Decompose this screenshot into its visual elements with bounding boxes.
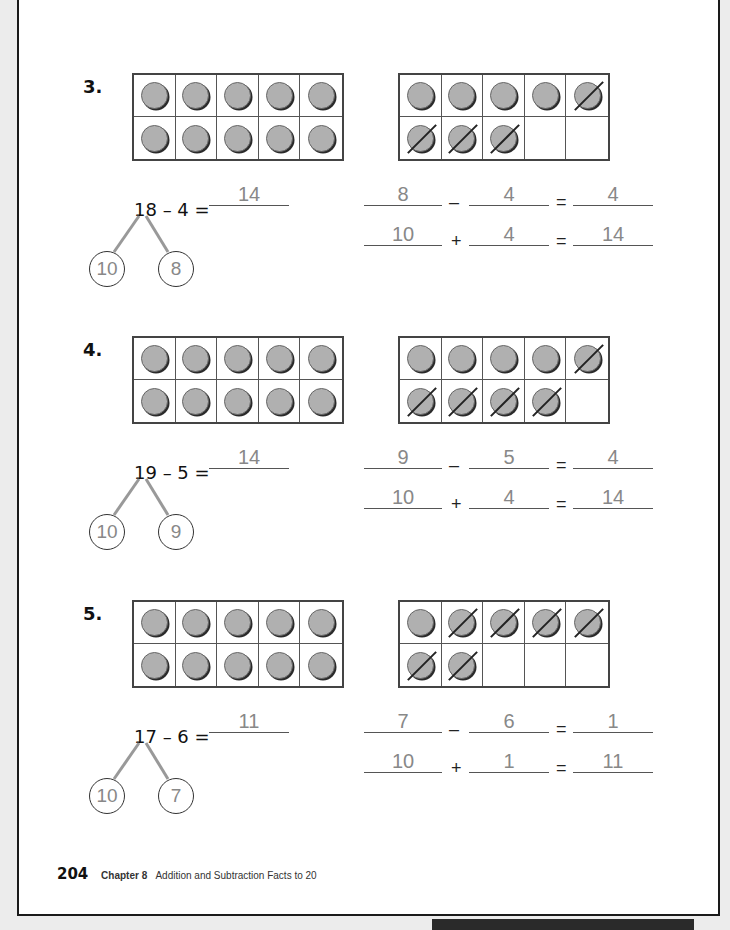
row2-b-blank[interactable]: 4 xyxy=(469,223,549,246)
row1-c-blank[interactable]: 4 xyxy=(573,183,653,206)
bond-circle-tens: 10 xyxy=(89,778,125,814)
row1-c-blank[interactable]: 4 xyxy=(573,446,653,469)
row2-b-blank[interactable]: 4 xyxy=(469,486,549,509)
bond-circle-ones: 8 xyxy=(158,251,194,287)
bond-circle-tens: 10 xyxy=(89,514,125,550)
number-bond-lines xyxy=(19,339,722,599)
row1-c-blank[interactable]: 1 xyxy=(573,710,653,733)
row2-a-blank[interactable]: 10 xyxy=(364,486,442,509)
bond-circle-ones: 9 xyxy=(158,514,194,550)
row1-b-blank[interactable]: 5 xyxy=(469,446,549,469)
row1-b-blank[interactable]: 6 xyxy=(469,710,549,733)
page-number: 204 xyxy=(57,865,88,883)
row2-c-blank[interactable]: 11 xyxy=(573,750,653,773)
row2-c-blank[interactable]: 14 xyxy=(573,486,653,509)
row2-b-blank[interactable]: 1 xyxy=(469,750,549,773)
problem-3: 3. 18 – 4 = 14 10 8 8 – 4 = 4 10 + 4 = 1… xyxy=(19,76,722,336)
chapter-label: Chapter 8 xyxy=(101,870,147,881)
row1-operator: – xyxy=(449,455,459,476)
page-footer: 204 Chapter 8 Addition and Subtraction F… xyxy=(57,865,317,883)
row1-equals: = xyxy=(556,719,567,740)
row2-equals: = xyxy=(556,758,567,779)
row2-a-blank[interactable]: 10 xyxy=(364,750,442,773)
chapter-title: Addition and Subtraction Facts to 20 xyxy=(155,870,316,881)
bond-circle-tens: 10 xyxy=(89,251,125,287)
row2-operator: + xyxy=(451,231,462,252)
row2-equals: = xyxy=(556,494,567,515)
bond-circle-ones: 7 xyxy=(158,778,194,814)
number-bond-lines xyxy=(19,603,722,863)
row2-c-blank[interactable]: 14 xyxy=(573,223,653,246)
page-edge-tab xyxy=(432,919,694,930)
row2-a-blank[interactable]: 10 xyxy=(364,223,442,246)
row1-equals: = xyxy=(556,192,567,213)
row1-b-blank[interactable]: 4 xyxy=(469,183,549,206)
row2-operator: + xyxy=(451,758,462,779)
number-bond-lines xyxy=(19,76,722,336)
row2-equals: = xyxy=(556,231,567,252)
problem-5: 5. 17 – 6 = 11 10 7 7 – 6 = 1 10 + 1 = 1… xyxy=(19,603,722,863)
row2-operator: + xyxy=(451,494,462,515)
row1-a-blank[interactable]: 8 xyxy=(364,183,442,206)
row1-equals: = xyxy=(556,455,567,476)
workbook-page: 3. 18 – 4 = 14 10 8 8 – 4 = 4 10 + 4 = 1… xyxy=(17,0,720,916)
row1-a-blank[interactable]: 9 xyxy=(364,446,442,469)
row1-operator: – xyxy=(449,192,459,213)
row1-operator: – xyxy=(449,719,459,740)
problem-4: 4. 19 – 5 = 14 10 9 9 – 5 = 4 10 + 4 = 1… xyxy=(19,339,722,599)
row1-a-blank[interactable]: 7 xyxy=(364,710,442,733)
